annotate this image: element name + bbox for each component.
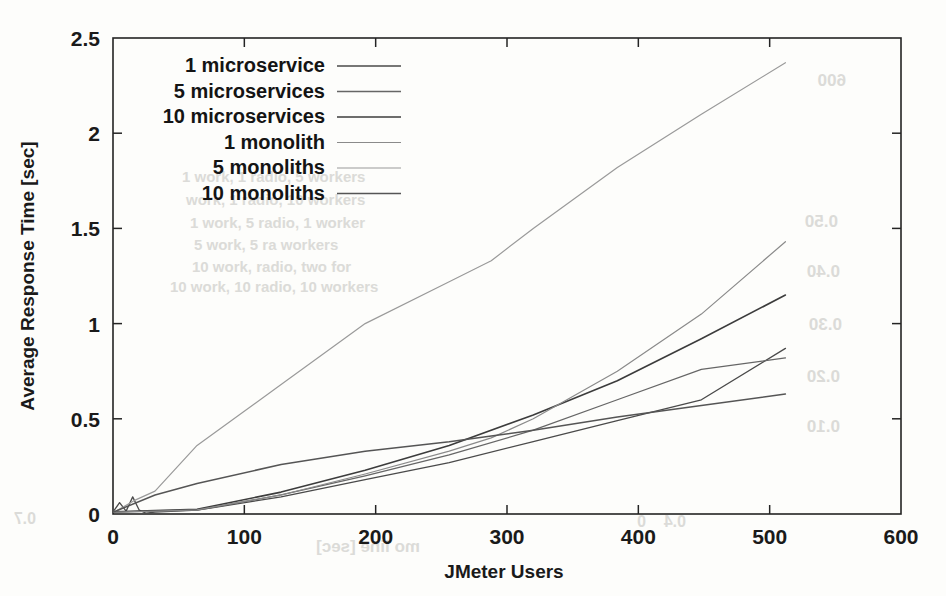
- y-tick-label: 2: [88, 122, 100, 145]
- x-axis-title: JMeter Users: [444, 561, 563, 582]
- legend-label: 10 monoliths: [202, 182, 325, 204]
- x-tick-label: 600: [883, 525, 918, 548]
- ghost-text: 0.10: [807, 417, 840, 436]
- ghost-text: 0.20: [807, 367, 840, 386]
- ghost-text: 600: [818, 71, 846, 90]
- x-tick-label: 0: [107, 525, 119, 548]
- x-tick-label: 100: [227, 525, 262, 548]
- ghost-text: 0.4: [664, 513, 686, 530]
- ghost-text: 0.30: [809, 315, 842, 334]
- ghost-text: 10 work, 10 radio, 10 workers: [170, 278, 378, 295]
- x-tick-label: 500: [752, 525, 787, 548]
- legend-label: 5 microservices: [174, 80, 325, 102]
- series-line: [114, 358, 785, 512]
- response-time-line-chart: 6000.500.400.300.200.101 work, 1 radio, …: [0, 0, 946, 596]
- y-tick-label: 0.5: [71, 408, 101, 431]
- ghost-text: 10 work, radio, two for: [192, 258, 351, 275]
- y-tick-label: 0: [88, 503, 100, 526]
- ghost-text: 0.40: [807, 262, 840, 281]
- series-line: [114, 394, 785, 512]
- legend-label: 1 monolith: [224, 131, 325, 153]
- ghost-text: 0.7: [14, 510, 36, 527]
- y-axis-title: Average Response Time [sec]: [17, 141, 38, 410]
- y-tick-label: 2.5: [71, 27, 101, 50]
- x-tick-label: 200: [358, 525, 393, 548]
- figure-container: 6000.500.400.300.200.101 work, 1 radio, …: [0, 0, 946, 596]
- ghost-text: 5 work, 5 ra workers: [194, 236, 338, 253]
- ghost-bleedthrough-layer: 6000.500.400.300.200.101 work, 1 radio, …: [14, 71, 846, 556]
- legend-label: 1 microservice: [185, 54, 325, 76]
- legend-label: 10 microservices: [163, 105, 325, 127]
- legend-label: 5 monoliths: [213, 156, 325, 178]
- y-tick-label: 1.5: [71, 217, 101, 240]
- x-tick-label: 400: [621, 525, 656, 548]
- x-tick-label: 300: [489, 525, 524, 548]
- y-tick-label: 1: [88, 313, 100, 336]
- series-line: [114, 348, 785, 513]
- ghost-text: 0.50: [805, 212, 838, 231]
- ghost-text: 1 work, 5 radio, 1 worker: [190, 214, 365, 231]
